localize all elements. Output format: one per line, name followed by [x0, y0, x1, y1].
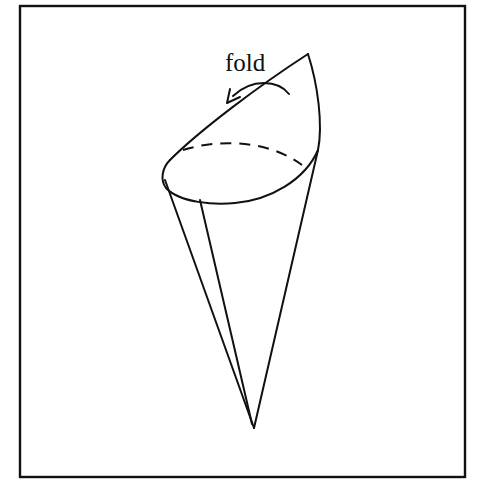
cone-right-side [254, 150, 318, 428]
cone-rim-front [163, 150, 318, 204]
cone-left-side [165, 180, 254, 428]
figure-frame [20, 6, 465, 477]
cone-fold-diagram: fold [0, 0, 478, 498]
flap-right-edge [308, 54, 320, 150]
fold-arrow-icon [227, 83, 289, 103]
fold-label: fold [225, 49, 266, 76]
cone-rim-back [183, 143, 302, 165]
cone-inner-seam [200, 200, 252, 424]
